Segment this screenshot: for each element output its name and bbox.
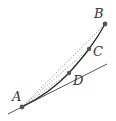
- point-a: [20, 105, 25, 110]
- label-c: C: [93, 44, 103, 59]
- label-b: B: [93, 6, 104, 21]
- label-d: D: [72, 73, 84, 88]
- secant-line-ad: [22, 73, 69, 107]
- label-a: A: [11, 89, 21, 104]
- point-b: [103, 22, 108, 27]
- point-c: [87, 47, 91, 51]
- secant-tangent-diagram: A B C D: [0, 0, 116, 121]
- point-d: [67, 71, 71, 75]
- secant-line-ab: [22, 24, 105, 107]
